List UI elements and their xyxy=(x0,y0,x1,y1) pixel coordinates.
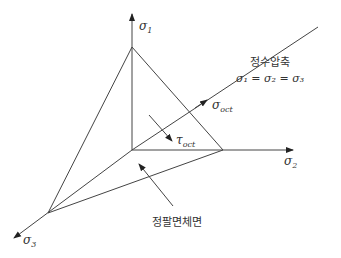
tau-oct-arrow xyxy=(149,115,172,141)
sigma3-label: σ3 xyxy=(23,233,36,249)
sigma-oct-arrow xyxy=(195,100,207,108)
sigma2-label: σ2 xyxy=(284,154,297,170)
octahedral-plane-triangle xyxy=(48,47,223,213)
hydrostatic-axis xyxy=(132,27,318,150)
stress-space-diagram: σ1 σ2 σ3 정수압축 σ₁ = σ₂ = σ₃ σoct τoct 정팔면… xyxy=(0,0,341,258)
sigma1-label: σ1 xyxy=(139,19,152,35)
hydrostatic-axis-label: 정수압축 xyxy=(250,56,290,69)
tau-oct-label: τoct xyxy=(176,133,196,149)
octahedral-plane-label: 정팔면체면 xyxy=(152,216,202,229)
hydrostatic-equation: σ₁ = σ₂ = σ₃ xyxy=(236,72,304,85)
sigma-oct-label: σoct xyxy=(212,98,234,114)
